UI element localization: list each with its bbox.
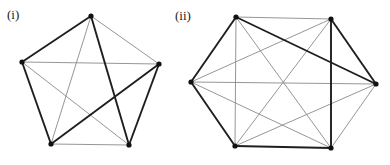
graph-pentagon	[19, 13, 161, 147]
thin-edge	[51, 144, 129, 145]
thick-edge	[22, 16, 91, 62]
vertex-top	[88, 13, 93, 18]
vertex-bottom-left	[232, 143, 237, 148]
thick-edge	[191, 82, 235, 146]
vertex-top-left	[233, 14, 238, 19]
thick-edge	[91, 16, 129, 145]
thin-edge	[236, 17, 331, 19]
vertex-bottom-right	[126, 142, 131, 147]
thick-edge	[51, 64, 159, 144]
vertex-bottom-right	[328, 145, 333, 150]
thin-edge	[22, 62, 159, 64]
thick-edge	[22, 62, 51, 144]
vertex-top-right	[328, 16, 333, 21]
thin-edge	[235, 17, 236, 146]
thin-edge	[51, 16, 91, 144]
thick-edge	[236, 17, 376, 84]
vertex-left	[188, 79, 193, 84]
thin-edge	[235, 84, 376, 146]
vertex-left	[19, 59, 24, 64]
vertex-bottom-left	[48, 141, 53, 146]
graph-diagram	[0, 0, 390, 165]
thin-edge	[191, 82, 331, 148]
vertex-right	[156, 61, 161, 66]
thin-edge	[91, 16, 159, 64]
thick-edge	[235, 146, 331, 148]
thin-edge	[22, 62, 129, 145]
graph-hexagon	[188, 14, 378, 150]
vertex-right	[373, 81, 378, 86]
